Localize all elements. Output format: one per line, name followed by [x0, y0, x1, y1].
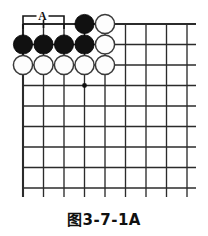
white-stone[interactable] — [13, 55, 32, 74]
white-stone[interactable] — [54, 55, 73, 74]
white-stone[interactable] — [75, 55, 94, 74]
figure-caption: 图3-7-1A — [0, 208, 208, 229]
go-diagram-figure: A 图3-7-1A — [0, 0, 208, 236]
white-stone[interactable] — [34, 55, 53, 74]
go-board[interactable]: A — [0, 0, 208, 205]
white-stone[interactable] — [95, 35, 114, 54]
black-stone[interactable] — [34, 35, 53, 54]
white-stone[interactable] — [95, 14, 114, 33]
black-stone[interactable] — [13, 35, 32, 54]
star-point — [82, 83, 87, 88]
white-stone[interactable] — [95, 55, 114, 74]
star-points-layer — [82, 83, 87, 88]
black-stone[interactable] — [54, 35, 73, 54]
marker-label-a: A — [38, 10, 47, 22]
black-stone[interactable] — [75, 14, 94, 33]
black-stone[interactable] — [75, 35, 94, 54]
